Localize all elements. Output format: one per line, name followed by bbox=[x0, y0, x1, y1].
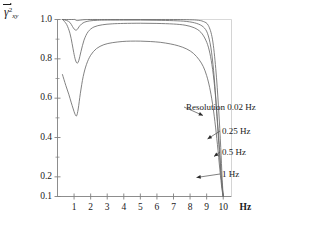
y-axis-label: γ2xy bbox=[4, 6, 18, 20]
y-tick-label: 0.6 bbox=[22, 93, 52, 103]
chart-figure: γ2xy 0.10.20.40.60.81.0 12345678910 Hz R… bbox=[0, 0, 334, 235]
annotation-arrowhead bbox=[197, 175, 201, 179]
annotation-arrowhead bbox=[208, 135, 213, 139]
x-axis-unit-label: Hz bbox=[240, 203, 252, 213]
y-tick-label: 0.8 bbox=[22, 54, 52, 64]
x-tick-label: 10 bbox=[213, 203, 233, 213]
y-axis-label-subscript: xy bbox=[12, 12, 18, 20]
y-tick-label: 0.2 bbox=[22, 172, 52, 182]
y-tick-label: 1.0 bbox=[22, 15, 52, 25]
y-axis-label-symbol: γ bbox=[4, 6, 9, 18]
annotation-label: 1 Hz bbox=[222, 170, 239, 179]
annotation-label: 0.5 Hz bbox=[222, 148, 246, 157]
annotation-label: Resolution 0.02 Hz bbox=[186, 103, 256, 112]
annotation-arrowhead bbox=[214, 153, 219, 157]
y-tick-label: 0.1 bbox=[22, 192, 52, 202]
curve-series-3 bbox=[62, 41, 223, 196]
y-tick-label: 0.4 bbox=[22, 133, 52, 143]
annotation-label: 0.25 Hz bbox=[222, 127, 251, 136]
